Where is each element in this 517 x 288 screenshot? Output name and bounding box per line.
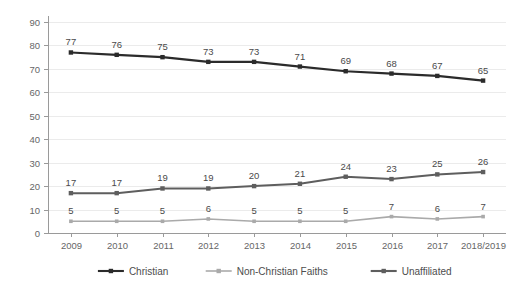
- data-point-label: 5: [160, 205, 165, 216]
- data-point-marker: [115, 191, 119, 195]
- data-point-marker: [298, 64, 302, 68]
- y-axis-tick-label: 40: [29, 134, 40, 145]
- data-point-marker: [161, 219, 165, 223]
- data-point-marker: [298, 182, 302, 186]
- data-point-label: 17: [111, 177, 122, 188]
- data-point-label: 21: [295, 168, 306, 179]
- data-point-label: 20: [249, 170, 260, 181]
- y-axis-tick-label: 60: [29, 87, 40, 98]
- y-axis-tick-label: 0: [35, 228, 40, 239]
- data-point-label: 73: [249, 46, 260, 57]
- data-point-marker: [344, 219, 348, 223]
- data-point-marker: [69, 50, 73, 54]
- y-axis-tick-label: 90: [29, 17, 40, 28]
- data-point-label: 67: [432, 60, 443, 71]
- data-point-label: 65: [478, 65, 489, 76]
- chart-canvas: 0102030405060708090 20092010201120122013…: [0, 0, 517, 288]
- data-point-marker: [481, 170, 485, 174]
- data-point-label: 5: [68, 205, 73, 216]
- y-axis-tick-label: 70: [29, 64, 40, 75]
- data-point-label: 5: [114, 205, 119, 216]
- data-point-label: 5: [343, 205, 348, 216]
- x-axis-tick-label: 2015: [336, 240, 357, 251]
- legend-item-label[interactable]: Unaffiliated: [402, 266, 452, 277]
- data-point-label: 76: [111, 39, 122, 50]
- x-axis-tick-label: 2018/2019: [461, 240, 506, 251]
- x-axis-tick-label: 2014: [290, 240, 311, 251]
- data-point-marker: [207, 217, 211, 221]
- data-point-marker: [115, 53, 119, 57]
- data-point-marker: [298, 219, 302, 223]
- data-point-label: 17: [66, 177, 77, 188]
- x-axis-tick-label: 2009: [61, 240, 82, 251]
- y-axis-tick-label: 10: [29, 205, 40, 216]
- data-point-marker: [435, 74, 439, 78]
- legend-item-label[interactable]: Non-Christian Faiths: [237, 266, 328, 277]
- data-point-label: 19: [157, 172, 168, 183]
- data-point-marker: [160, 186, 164, 190]
- data-point-label: 77: [66, 36, 77, 47]
- data-point-label: 5: [297, 205, 302, 216]
- legend-item-label[interactable]: Christian: [129, 266, 168, 277]
- legend-swatch-marker: [382, 269, 386, 273]
- data-point-label: 7: [389, 201, 394, 212]
- data-point-marker: [252, 60, 256, 64]
- x-axis-tick-label: 2011: [153, 240, 173, 251]
- y-axis-tick-label: 80: [29, 40, 40, 51]
- data-point-marker: [390, 215, 394, 219]
- y-axis-tick-label: 30: [29, 158, 40, 169]
- x-axis-tick-label: 2017: [427, 240, 448, 251]
- x-axis-tick-label: 2010: [107, 240, 128, 251]
- y-axis-tick-label: 50: [29, 111, 40, 122]
- data-point-marker: [206, 60, 210, 64]
- data-point-marker: [69, 191, 73, 195]
- x-axis-tick-label: 2012: [198, 240, 219, 251]
- data-point-label: 25: [432, 158, 443, 169]
- data-point-label: 5: [251, 205, 256, 216]
- data-point-label: 7: [480, 201, 485, 212]
- data-point-label: 19: [203, 172, 214, 183]
- data-point-marker: [436, 217, 440, 221]
- data-point-marker: [115, 219, 119, 223]
- data-point-label: 75: [157, 41, 168, 52]
- data-point-marker: [344, 69, 348, 73]
- x-axis-tick-label: 2013: [244, 240, 265, 251]
- y-axis-tick-label: 20: [29, 181, 40, 192]
- x-axis-tick-label: 2016: [382, 240, 403, 251]
- data-point-marker: [252, 219, 256, 223]
- data-point-label: 71: [295, 51, 306, 62]
- data-point-label: 23: [386, 163, 397, 174]
- data-point-label: 73: [203, 46, 214, 57]
- data-point-marker: [389, 71, 393, 75]
- data-point-label: 26: [478, 156, 489, 167]
- data-point-label: 68: [386, 58, 397, 69]
- data-point-label: 6: [206, 203, 211, 214]
- data-point-marker: [252, 184, 256, 188]
- data-point-marker: [206, 186, 210, 190]
- data-point-label: 24: [340, 161, 351, 172]
- data-point-marker: [481, 215, 485, 219]
- data-point-marker: [69, 219, 73, 223]
- data-point-marker: [160, 55, 164, 59]
- data-point-marker: [481, 78, 485, 82]
- legend-swatch-marker: [217, 269, 221, 273]
- data-point-label: 69: [340, 55, 351, 66]
- line-chart: 0102030405060708090 20092010201120122013…: [0, 0, 517, 288]
- legend-swatch-marker: [109, 269, 113, 273]
- data-point-marker: [344, 175, 348, 179]
- data-point-marker: [435, 172, 439, 176]
- data-point-label: 6: [435, 203, 440, 214]
- data-point-marker: [389, 177, 393, 181]
